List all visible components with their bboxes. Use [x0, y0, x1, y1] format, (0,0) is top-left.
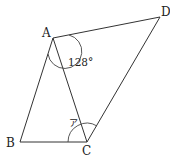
vertex-label-d: D — [161, 5, 170, 19]
segment-ab — [20, 38, 53, 142]
segment-dc — [87, 17, 160, 142]
angle-label-c: ア — [69, 118, 78, 128]
vertex-label-c: C — [82, 144, 91, 157]
geometry-diagram: A D B C 128° ア — [0, 0, 170, 157]
vertex-label-a: A — [41, 26, 51, 40]
angle-label-a: 128° — [68, 56, 93, 68]
vertex-label-b: B — [6, 136, 15, 150]
